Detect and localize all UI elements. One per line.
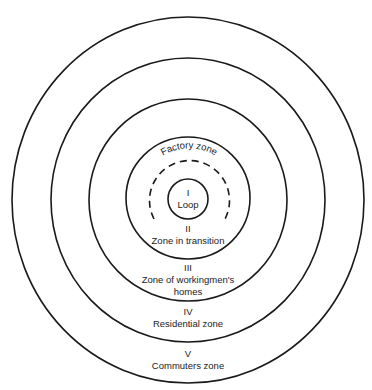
zone-v-numeral: V [185, 348, 192, 359]
zone-ii-label: Zone in transition [152, 235, 225, 246]
zone-iii-numeral: III [184, 262, 192, 273]
zone-i-label: Loop [177, 199, 198, 210]
zone-v-label: Commuters zone [152, 360, 224, 371]
zone-iv-numeral: IV [184, 306, 194, 317]
zone-iii-label-line1: Zone of workingmen's [142, 274, 235, 285]
zone-iii-label-line2: homes [174, 286, 203, 297]
zone-i-numeral: I [187, 187, 190, 198]
factory-zone-dashed-arc [150, 161, 230, 219]
zone-iv-label: Residential zone [153, 318, 223, 329]
zone-ii-numeral: II [185, 223, 190, 234]
concentric-zone-diagram: Factory zone I Loop II Zone in transitio… [0, 0, 372, 390]
factory-zone-label: Factory zone [159, 139, 220, 157]
